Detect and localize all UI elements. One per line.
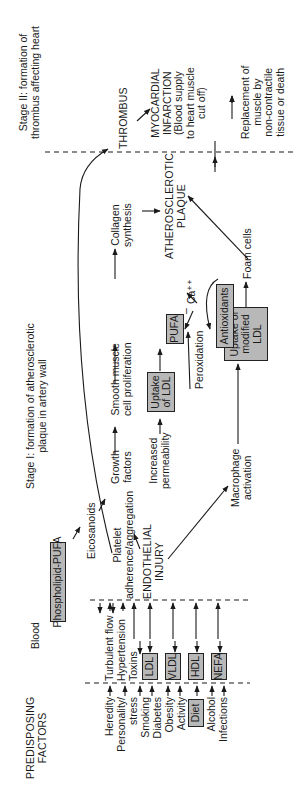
factor-diabetes: Diabetes (152, 697, 164, 759)
factor-activity: Activity (176, 697, 188, 759)
blood-hdl-box: HDL (188, 653, 204, 680)
factor-diet-box: Diet (188, 699, 204, 727)
antioxidants-box: Antioxidants (216, 284, 234, 348)
factor-personality-stress: Personality/ stress (116, 697, 139, 769)
factor-alcohol: Alcohol (206, 697, 218, 759)
blood-ldl-box: LDL (142, 653, 158, 680)
atherosclerotic-plaque-label: ATHEROSCLEROTIC PLAQUE (164, 153, 187, 259)
growth-factors-label: Growth factors (110, 450, 133, 484)
factor-obesity: Obesity (164, 697, 176, 759)
thrombus-label: THROMBUS (118, 87, 130, 149)
uptake-ldl-box: Uptake of LDL (147, 372, 175, 412)
foam-cells-label: Foam cells (242, 228, 254, 279)
blood-toxins: Toxins (128, 651, 140, 681)
blood-hypertension: Hypertension (116, 619, 128, 681)
peroxidation-label: Peroxidation (194, 331, 206, 389)
factor-smoking: Smoking (140, 697, 152, 759)
blood-turbulent-flow: Turbulent flow (104, 615, 116, 681)
inhibition-minus: – (180, 308, 192, 314)
smooth-muscle-label: Smooth muscle cell proliferation (110, 342, 133, 416)
macrophage-activation-label: Macrophage activation (230, 449, 253, 507)
blood-nefa-box: NEFA (211, 653, 227, 680)
replacement-label: Replacement of muscle by non-contractile… (240, 65, 286, 139)
myocardial-infarction-label: MYOCARDIAL INFARCTION (Blood supply to h… (150, 67, 208, 139)
stage2-header: Stage II: formation of thrombus affectin… (18, 26, 41, 139)
factor-heredity: Heredity (104, 697, 116, 749)
eicosanoids-label: Eicosanoids (86, 502, 98, 559)
predisposing-factors-header: PREDISPOSING FACTORS (25, 697, 48, 779)
blood-header: Blood (30, 622, 42, 649)
endothelial-injury-label: ENDOTHELIAL INJURY (142, 524, 165, 599)
stage1-header: Stage I: formation of atherosclerotic pl… (25, 323, 48, 489)
platelet-label: Platelet adherence/aggregation (112, 491, 135, 599)
increased-permeability-label: Increased permeability (148, 432, 171, 489)
calcium-label: Ca⁺⁺ (186, 279, 198, 304)
collagen-synthesis-label: Collagen synthesis (110, 203, 133, 247)
blood-vldl-box: VLDL (165, 653, 181, 680)
pufa-box: PUFA (166, 314, 184, 344)
atherosclerosis-pathway-diagram: PREDISPOSING FACTORS Blood Stage I: form… (0, 0, 295, 789)
factor-infections: Infections (218, 697, 230, 759)
phospholipid-pufa-box: Phospholipid-PUFA (50, 542, 66, 622)
